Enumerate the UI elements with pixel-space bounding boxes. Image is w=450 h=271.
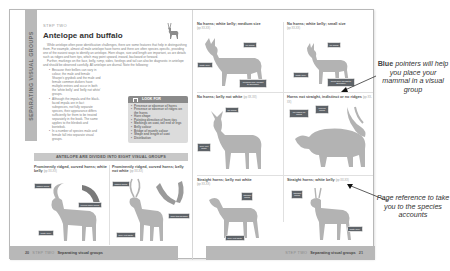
- page-reference-annotation: Page reference to take you to the specie…: [376, 194, 450, 220]
- footer-right: STEP TWO Separating visual groups 21: [206, 246, 375, 260]
- visual-group-panel: Straight horns; white belly (pp XX-XX) s…: [287, 178, 373, 244]
- page-title: Antelope and buffalo: [43, 31, 123, 40]
- label-pointer: no horns: [225, 107, 239, 113]
- book-spread: SEPARATING VISUAL GROUPS STEP TWO Antelo…: [9, 9, 374, 259]
- look-for-box: LOOK FOR Presence or absence of horns Pr…: [128, 96, 188, 143]
- label-pointer: no horns: [243, 42, 257, 48]
- blue-pointers-annotation: Blue pointers will help you place your m…: [376, 60, 450, 95]
- label-pointer: white belly: [38, 230, 54, 236]
- note-item: In a number of species male and female f…: [49, 129, 101, 141]
- intro-paragraph: Further, markings on the face, belly, ru…: [43, 59, 188, 67]
- footer-section: Separating visual groups: [310, 251, 355, 255]
- label-pointer: curved horns: [315, 105, 329, 114]
- label-pointer: curved back horns: [78, 202, 102, 208]
- visual-group-panel: Prominently ridged, curved horns; white …: [34, 165, 108, 245]
- look-for-heading: LOOK FOR: [128, 96, 188, 103]
- look-for-item: Distribution: [131, 137, 185, 141]
- label-pointer: straight horns: [241, 192, 253, 201]
- label-pointer: no horns: [327, 42, 341, 48]
- label-pointer: belly not white: [225, 235, 245, 241]
- label-pointer: straight horns: [291, 190, 303, 199]
- footer-step: STEP TWO: [285, 251, 307, 255]
- side-tab-label: SEPARATING VISUAL GROUPS: [28, 31, 34, 121]
- note-item: Although the impala and the black-faced …: [49, 97, 101, 130]
- annotation-text: pointers will help you place your mammal…: [382, 59, 448, 94]
- right-page: No horns; white belly; medium size(pp XX…: [193, 10, 375, 260]
- page-reference: (pp XX-XX): [197, 183, 210, 186]
- antelope-silhouette-icon: [164, 22, 180, 40]
- visual-group-panel: No horns; white belly; small size(pp XX-…: [287, 22, 373, 90]
- look-for-list: Presence or absence of horns Presence or…: [128, 103, 188, 142]
- page-reference: (pp XX-XX): [197, 27, 210, 30]
- page-number: 20: [25, 251, 29, 255]
- reedbuck-silhouette-icon: [303, 186, 359, 242]
- label-pointer: small size (height to shoulder): [327, 78, 355, 87]
- label-pointer: white belly: [293, 72, 309, 78]
- footer-left: 20 STEP TWO Separating visual groups: [10, 246, 178, 260]
- panel-divider: [197, 175, 373, 176]
- page-reference: (pp XX-XX): [243, 96, 256, 99]
- step-label: STEP TWO: [43, 23, 67, 28]
- panel-title: Straight horns; belly not white(pp XX-XX…: [197, 178, 281, 188]
- notes-list: Because their bellies can vary in colour…: [43, 68, 101, 142]
- panel-divider: [109, 165, 110, 245]
- annotation-bold: Blue: [378, 59, 394, 68]
- page-reference: (pp XX-XX): [130, 170, 143, 173]
- panel-title: Prominently ridged, curved horns; white …: [34, 165, 108, 175]
- label-pointer: no ridges on horns: [289, 109, 309, 118]
- look-for-title: LOOK FOR: [142, 97, 161, 101]
- page-reference: (pp XX-XX): [336, 179, 349, 182]
- panel-divider: [197, 92, 373, 93]
- label-pointer: white belly: [197, 62, 213, 68]
- panel-divider: [283, 22, 284, 222]
- label-pointer: belly not white: [116, 232, 136, 238]
- panel-title: No horns; belly not white (pp XX-XX): [197, 95, 281, 100]
- panel-title: Straight horns; white belly (pp XX-XX): [287, 178, 373, 183]
- label-pointer: horn tips forward: [168, 213, 190, 219]
- left-page: SEPARATING VISUAL GROUPS STEP TWO Antelo…: [10, 10, 192, 260]
- label-pointer: medium size (height to shoulder): [239, 79, 267, 88]
- label-pointer: ridged horns: [34, 183, 52, 189]
- visual-group-panel: Straight horns; belly not white(pp XX-XX…: [197, 178, 281, 244]
- label-pointer: belly not white: [197, 143, 211, 152]
- page-number: 21: [359, 251, 363, 255]
- binoculars-icon: [133, 98, 138, 102]
- label-pointer: ridged horns: [112, 181, 130, 187]
- visual-group-panel: No horns; white belly; medium size(pp XX…: [197, 22, 281, 90]
- note-item: Because their bellies can vary in colour…: [49, 68, 101, 97]
- panel-title: No horns; white belly; medium size(pp XX…: [197, 22, 281, 32]
- visual-group-panel: Prominently ridged, curved horns; belly …: [112, 165, 188, 245]
- footer-section: Separating visual groups: [57, 251, 102, 255]
- groups-banner: ANTELOPE ARE DIVIDED INTO EIGHT VISUAL G…: [34, 153, 188, 161]
- page-reference: (pp XX-XX): [287, 27, 300, 30]
- visual-group-panel: Horns not straight, indistinct or no rid…: [287, 95, 373, 173]
- footer-step: STEP TWO: [32, 251, 54, 255]
- panel-title: No horns; white belly; small size(pp XX-…: [287, 22, 373, 32]
- visual-group-panel: No horns; belly not white (pp XX-XX) no …: [197, 95, 281, 173]
- side-tab: SEPARATING VISUAL GROUPS: [25, 10, 37, 141]
- page-reference: (pp XX-XX): [44, 170, 57, 173]
- hartebeest-silhouette-icon: [201, 105, 277, 171]
- panel-title: Prominently ridged, curved horns; belly …: [112, 165, 188, 175]
- label-pointer: white belly: [347, 226, 363, 232]
- intro-paragraph: While antelope often pose identification…: [43, 43, 188, 59]
